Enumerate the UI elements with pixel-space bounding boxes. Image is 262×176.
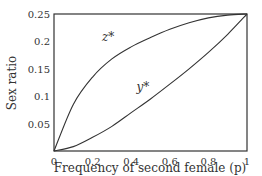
x-axis-label: Frequency of second female (p) (54, 161, 247, 175)
plot-area: 00.20.40.60.810.050.10.150.20.25z*y* (28, 9, 250, 167)
y-axis-label: Sex ratio (5, 56, 19, 111)
plot-frame (54, 14, 247, 151)
y-tick-label: 0.05 (28, 119, 50, 130)
y-tick-label: 0.15 (28, 64, 50, 75)
series-annotation: z* (101, 30, 114, 44)
series-annotation: y* (135, 80, 149, 94)
y-tick-label: 0.25 (28, 9, 50, 20)
sex-ratio-chart: 00.20.40.60.810.050.10.150.20.25z*y* Sex… (0, 0, 262, 176)
y-tick-label: 0.2 (34, 36, 50, 47)
y-tick-label: 0.1 (34, 91, 50, 102)
series-line-z-star (54, 14, 247, 151)
series-line-y-star (54, 14, 247, 151)
